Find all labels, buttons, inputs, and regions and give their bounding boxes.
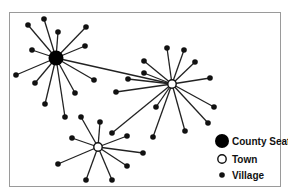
town-node: [168, 80, 176, 88]
village-node: [69, 135, 75, 141]
legend-village-label: Village: [232, 170, 264, 181]
village-node: [42, 101, 48, 107]
county-seat-node: [49, 51, 64, 66]
village-node: [150, 134, 156, 140]
village-node: [113, 89, 119, 95]
village-node: [83, 177, 89, 183]
village-node: [72, 90, 78, 96]
village-node: [192, 59, 198, 65]
village-node: [32, 80, 38, 86]
village-node: [141, 58, 147, 64]
village-node: [55, 161, 61, 167]
network-diagram: County Seat Town Village: [0, 0, 288, 192]
village-node: [141, 70, 147, 76]
village-node: [41, 16, 47, 22]
village-node: [109, 130, 115, 136]
legend-village-icon: [219, 172, 225, 178]
legend-town-icon: [218, 155, 226, 163]
village-node: [181, 47, 187, 53]
village-node: [55, 29, 61, 35]
legend-town-label: Town: [232, 154, 257, 165]
village-node: [182, 128, 188, 134]
village-node: [29, 47, 35, 53]
village-node: [62, 114, 68, 120]
village-node: [78, 114, 84, 120]
village-node: [91, 77, 97, 83]
town-node: [94, 143, 102, 151]
village-node: [124, 163, 130, 169]
village-node: [211, 104, 217, 110]
village-node: [153, 104, 159, 110]
village-node: [13, 72, 19, 78]
village-node: [25, 22, 31, 28]
legend-county-seat-icon: [215, 134, 229, 148]
village-node: [207, 75, 213, 81]
village-node: [97, 119, 103, 125]
village-node: [125, 76, 131, 82]
legend-county-seat-label: County Seat: [232, 136, 288, 147]
village-node: [164, 45, 170, 51]
village-node: [124, 133, 130, 139]
village-node: [109, 177, 115, 183]
village-node: [205, 120, 211, 126]
village-node: [83, 24, 89, 30]
village-node: [82, 43, 88, 49]
village-node: [140, 150, 146, 156]
